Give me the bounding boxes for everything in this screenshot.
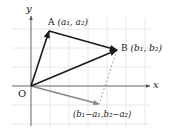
point-b-label: B (b₁, b₂) bbox=[121, 44, 162, 53]
vector-o-to-b bbox=[31, 50, 117, 86]
origin-label: O bbox=[18, 89, 26, 99]
x-axis-label: x bbox=[153, 80, 159, 90]
vector-o-to-d bbox=[31, 86, 99, 104]
point-a-label: A (a₁, a₂) bbox=[48, 18, 88, 27]
dashed-line-b-to-d bbox=[99, 50, 117, 104]
point-a-coords: (a₁, a₂) bbox=[57, 17, 88, 27]
point-a-name: A bbox=[48, 17, 55, 27]
vector-o-to-a bbox=[31, 31, 49, 86]
point-b-coords: (b₁, b₂) bbox=[131, 43, 162, 53]
y-axis-label: y bbox=[26, 4, 32, 14]
point-b-name: B bbox=[121, 43, 128, 53]
point-d-coords: (b₁−a₁,b₂−a₂) bbox=[73, 110, 131, 119]
